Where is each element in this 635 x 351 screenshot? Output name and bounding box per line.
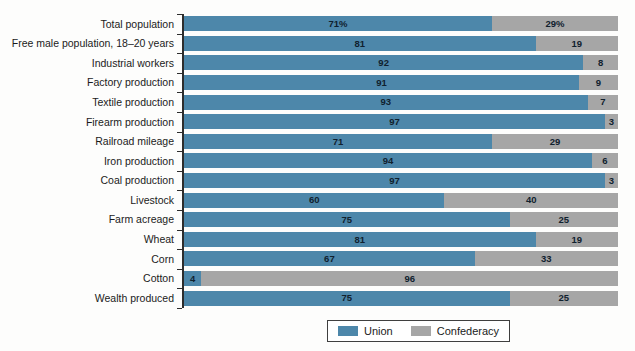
union-bar-segment: 97	[184, 173, 605, 188]
confederacy-bar-segment: 3	[605, 173, 618, 188]
bar-row: Iron production946	[0, 151, 635, 171]
category-label: Total population	[0, 19, 174, 30]
union-bar-segment: 91	[184, 75, 579, 90]
union-value-label: 75	[341, 293, 352, 303]
category-label: Wealth produced	[0, 293, 174, 304]
bar-track: 6733	[184, 251, 618, 266]
confederacy-value-label: 25	[558, 215, 569, 225]
union-value-label: 81	[354, 39, 365, 49]
confederacy-value-label: 19	[571, 39, 582, 49]
confederacy-bar-segment: 96	[201, 271, 618, 286]
bar-track: 496	[184, 271, 618, 286]
bar-track: 973	[184, 114, 618, 129]
category-label: Railroad mileage	[0, 136, 174, 147]
bar-track: 7525	[184, 212, 618, 227]
confederacy-bar-segment: 19	[536, 36, 618, 51]
confederacy-value-label: 9	[596, 78, 601, 88]
confederacy-bar-segment: 9	[579, 75, 618, 90]
confederacy-bar-segment: 33	[475, 251, 618, 266]
bar-track: 8119	[184, 232, 618, 247]
legend-item-union: Union	[338, 326, 393, 337]
union-bar-segment: 81	[184, 36, 536, 51]
category-label: Farm acreage	[0, 214, 174, 225]
category-label: Textile production	[0, 97, 174, 108]
union-value-label: 94	[383, 156, 394, 166]
category-label: Free male population, 18–20 years	[0, 38, 174, 49]
bar-track: 7129	[184, 134, 618, 149]
union-bar-segment: 71%	[184, 16, 492, 31]
union-bar-segment: 94	[184, 153, 592, 168]
confederacy-bar-segment: 19	[536, 232, 618, 247]
category-label: Factory production	[0, 77, 174, 88]
union-value-label: 81	[354, 235, 365, 245]
chart-legend: Union Confederacy	[327, 320, 510, 342]
union-value-label: 60	[309, 195, 320, 205]
confederacy-value-label: 25	[558, 293, 569, 303]
bar-row: Cotton496	[0, 269, 635, 289]
union-value-label: 71	[333, 137, 344, 147]
bar-track: 6040	[184, 193, 618, 208]
confederacy-swatch-icon	[411, 326, 431, 336]
bar-track: 946	[184, 153, 618, 168]
union-value-label: 92	[378, 58, 389, 68]
legend-item-confederacy: Confederacy	[411, 326, 499, 337]
category-label: Coal production	[0, 175, 174, 186]
confederacy-value-label: 6	[602, 156, 607, 166]
bar-track: 8119	[184, 36, 618, 51]
confederacy-bar-segment: 8	[583, 55, 618, 70]
union-value-label: 93	[381, 97, 392, 107]
bar-row: Free male population, 18–20 years8119	[0, 34, 635, 54]
bar-row: Farm acreage7525	[0, 210, 635, 230]
union-value-label: 71%	[329, 19, 348, 29]
confederacy-value-label: 3	[609, 176, 614, 186]
confederacy-bar-segment: 7	[588, 95, 618, 110]
bar-row: Wealth produced7525	[0, 288, 635, 308]
union-swatch-icon	[338, 326, 358, 336]
bar-row: Factory production919	[0, 73, 635, 93]
bar-track: 7525	[184, 291, 618, 306]
category-label: Corn	[0, 254, 174, 265]
bar-row: Railroad mileage7129	[0, 132, 635, 152]
union-bar-segment: 71	[184, 134, 492, 149]
confederacy-value-label: 7	[600, 97, 605, 107]
stacked-bar-chart: Total population71%29%Free male populati…	[0, 0, 635, 351]
confederacy-bar-segment: 40	[444, 193, 618, 208]
confederacy-value-label: 19	[571, 235, 582, 245]
chart-rows: Total population71%29%Free male populati…	[0, 14, 635, 308]
union-value-label: 67	[324, 254, 335, 264]
union-value-label: 4	[190, 274, 195, 284]
confederacy-value-label: 29	[550, 137, 561, 147]
category-label: Industrial workers	[0, 58, 174, 69]
bar-row: Industrial workers928	[0, 53, 635, 73]
bar-row: Coal production973	[0, 171, 635, 191]
confederacy-bar-segment: 29	[492, 134, 618, 149]
union-bar-segment: 75	[184, 291, 510, 306]
category-label: Iron production	[0, 156, 174, 167]
bar-row: Livestock6040	[0, 190, 635, 210]
confederacy-value-label: 40	[526, 195, 537, 205]
union-bar-segment: 81	[184, 232, 536, 247]
confederacy-bar-segment: 3	[605, 114, 618, 129]
bar-track: 937	[184, 95, 618, 110]
bar-track: 973	[184, 173, 618, 188]
bar-track: 928	[184, 55, 618, 70]
category-label: Cotton	[0, 273, 174, 284]
legend-label-union: Union	[364, 326, 393, 337]
confederacy-value-label: 3	[609, 117, 614, 127]
union-bar-segment: 97	[184, 114, 605, 129]
union-value-label: 75	[341, 215, 352, 225]
union-value-label: 97	[389, 176, 400, 186]
bar-track: 919	[184, 75, 618, 90]
bar-row: Wheat8119	[0, 230, 635, 250]
category-label: Firearm production	[0, 117, 174, 128]
union-bar-segment: 67	[184, 251, 475, 266]
confederacy-value-label: 33	[541, 254, 552, 264]
union-bar-segment: 60	[184, 193, 444, 208]
union-bar-segment: 92	[184, 55, 583, 70]
bar-row: Total population71%29%	[0, 14, 635, 34]
confederacy-value-label: 29%	[546, 19, 565, 29]
confederacy-value-label: 96	[404, 274, 415, 284]
category-label: Livestock	[0, 195, 174, 206]
bar-row: Textile production937	[0, 92, 635, 112]
bar-row: Firearm production973	[0, 112, 635, 132]
